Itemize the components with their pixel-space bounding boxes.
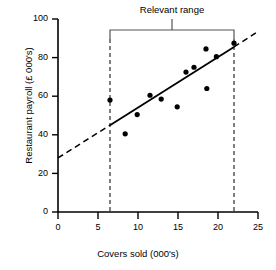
- data-point: [231, 41, 236, 46]
- data-points: [107, 41, 236, 137]
- trend-line-dashed-low: [58, 125, 110, 158]
- data-point: [107, 97, 112, 102]
- data-point: [204, 86, 209, 91]
- chart-figure: 100 80 60 40 20 0 0 5 10 15 20 25 Restau…: [0, 0, 276, 270]
- data-point: [159, 97, 164, 102]
- plot-axes: [52, 19, 258, 219]
- data-point: [123, 131, 128, 136]
- data-point: [183, 69, 188, 74]
- data-point: [214, 54, 219, 59]
- relevant-range-label: Relevant range: [110, 4, 234, 15]
- x-tick-label-20: 20: [208, 223, 228, 232]
- x-tick-label-5: 5: [88, 223, 108, 232]
- x-tick-label-0: 0: [48, 223, 68, 232]
- y-axis-title: Restaurant payroll (£ 000's): [23, 21, 34, 191]
- data-point: [203, 46, 208, 51]
- data-point: [147, 93, 152, 98]
- trend-line: [58, 32, 258, 158]
- x-tick-label-25: 25: [248, 223, 268, 232]
- data-point: [191, 65, 196, 70]
- x-tick-label-10: 10: [128, 223, 148, 232]
- x-axis-title: Covers sold (000's): [0, 248, 276, 259]
- trend-line-dashed-high: [234, 32, 258, 47]
- data-point: [175, 104, 180, 109]
- x-tick-label-15: 15: [168, 223, 188, 232]
- y-tick-label-0: 0: [16, 207, 48, 216]
- data-point: [135, 112, 140, 117]
- relevant-range-bracket: [110, 19, 234, 39]
